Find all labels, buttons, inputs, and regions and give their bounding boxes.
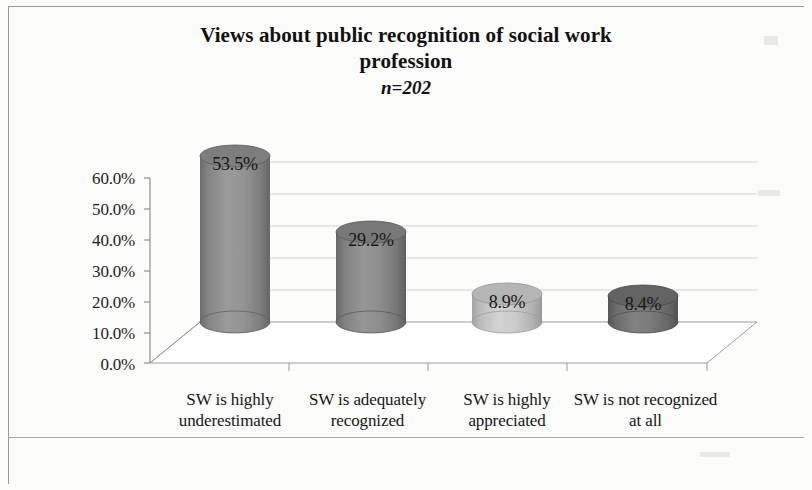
y-axis-label-40: 40.0% bbox=[55, 232, 135, 249]
category-label-2: SW is adequately recognized bbox=[295, 389, 440, 431]
data-label-bar-3: 8.9% bbox=[457, 293, 557, 311]
category-label-4: SW is not recognized at all bbox=[573, 389, 718, 431]
y-axis-label-10: 10.0% bbox=[55, 325, 135, 342]
y-axis-label-0: 0.0% bbox=[55, 356, 135, 373]
y-axis-label-60: 60.0% bbox=[55, 170, 135, 187]
chart-plot-area: 60.0% 50.0% 40.0% 30.0% 20.0% 10.0% 0.0%… bbox=[0, 0, 812, 490]
data-label-bar-1: 53.5% bbox=[185, 155, 285, 173]
y-axis-label-50: 50.0% bbox=[55, 201, 135, 218]
category-label-3: SW is highly appreciated bbox=[432, 389, 582, 431]
y-axis-label-20: 20.0% bbox=[55, 294, 135, 311]
data-label-bar-4: 8.4% bbox=[593, 295, 693, 313]
category-label-1: SW is highly underestimated bbox=[150, 389, 310, 431]
y-axis-label-30: 30.0% bbox=[55, 263, 135, 280]
data-label-bar-2: 29.2% bbox=[321, 231, 421, 249]
